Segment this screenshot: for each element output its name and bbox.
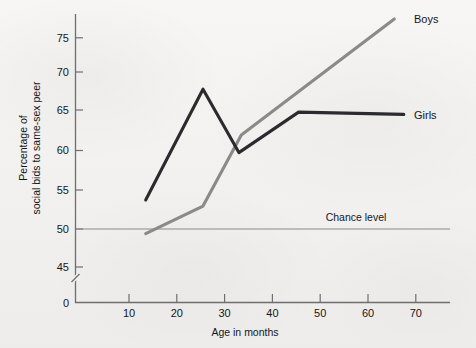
x-axis-tick-labels: 10 20 30 40 50 60 70: [123, 307, 422, 319]
y-axis-title-line2: social bids to same-sex peer: [30, 81, 42, 215]
y-tick-label-45: 45: [57, 261, 69, 273]
chance-level-label: Chance level: [326, 211, 387, 223]
series-line-girls: [146, 89, 404, 200]
x-tick-label-10: 10: [123, 307, 135, 319]
y-axis-title: Percentage of social bids to same-sex pe…: [17, 81, 42, 215]
x-tick-label-70: 70: [410, 307, 422, 319]
chart-figure: 75 70 65 60 55 50 45 0 Percentage of soc…: [0, 0, 476, 348]
series-label-boys: Boys: [414, 13, 439, 25]
x-tick-label-60: 60: [362, 307, 374, 319]
y-tick-label-70: 70: [57, 66, 69, 78]
y-axis-tick-labels: 75 70 65 60 55 50 45 0: [57, 32, 69, 309]
x-axis-ticks: [129, 294, 416, 302]
x-axis-title: Age in months: [211, 326, 278, 338]
axis-lines: [75, 14, 450, 303]
x-tick-label-50: 50: [314, 307, 326, 319]
x-tick-label-30: 30: [218, 307, 230, 319]
y-axis-break-icon: [72, 274, 80, 282]
y-axis-title-line1: Percentage of: [17, 115, 29, 180]
x-tick-label-20: 20: [171, 307, 183, 319]
line-chart: 75 70 65 60 55 50 45 0 Percentage of soc…: [0, 0, 476, 348]
y-tick-label-55: 55: [57, 184, 69, 196]
y-tick-label-50: 50: [57, 223, 69, 235]
x-tick-label-40: 40: [266, 307, 278, 319]
y-tick-label-zero: 0: [63, 297, 69, 309]
y-axis-ticks: [75, 38, 83, 267]
y-tick-label-75: 75: [57, 32, 69, 44]
y-tick-label-60: 60: [57, 144, 69, 156]
y-tick-label-65: 65: [57, 104, 69, 116]
series-label-girls: Girls: [414, 109, 437, 121]
